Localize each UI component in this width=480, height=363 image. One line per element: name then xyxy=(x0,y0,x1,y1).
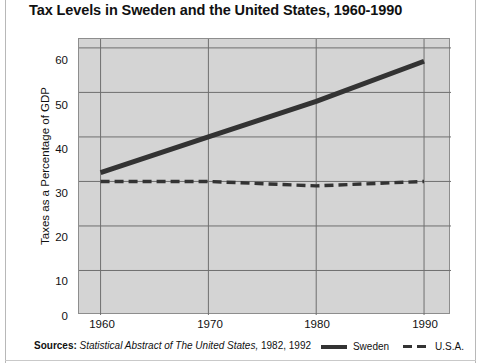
x-tick-label-1960: 1960 xyxy=(72,318,132,330)
page-edge-bottom xyxy=(5,360,476,361)
plot-area xyxy=(78,38,450,314)
y-tick-label-40: 40 xyxy=(28,143,68,155)
y-tick-label-50: 50 xyxy=(28,99,68,111)
y-tick-label-10: 10 xyxy=(28,275,68,287)
page-title: Tax Levels in Sweden and the United Stat… xyxy=(29,2,459,19)
legend-solid-line-icon xyxy=(321,345,347,349)
y-tick-label-30: 30 xyxy=(28,187,68,199)
legend-item-usa[interactable]: U.S.A. xyxy=(403,341,464,352)
chart-legend: Sweden U.S.A. xyxy=(321,341,464,352)
page-edge-right xyxy=(475,0,476,363)
gridlines xyxy=(79,39,451,315)
x-tick-label-1970: 1970 xyxy=(180,318,240,330)
legend-label-usa: U.S.A. xyxy=(435,341,464,352)
series-lines xyxy=(101,61,424,186)
y-tick-label-0: 0 xyxy=(28,310,68,322)
x-tick-label-1980: 1980 xyxy=(287,318,347,330)
legend-item-sweden[interactable]: Sweden xyxy=(321,341,389,352)
legend-dashed-line-icon xyxy=(403,345,429,348)
page-edge-left xyxy=(5,0,6,363)
series-line-sweden xyxy=(101,61,424,172)
y-tick-label-60: 60 xyxy=(28,54,68,66)
sources-years: 1982, 1992 xyxy=(261,340,311,351)
legend-label-sweden: Sweden xyxy=(353,341,389,352)
chart-page: Tax Levels in Sweden and the United Stat… xyxy=(0,0,480,363)
x-tick-label-1990: 1990 xyxy=(395,318,455,330)
sources-publication: Statistical Abstract of The United State… xyxy=(80,340,259,351)
y-tick-label-20: 20 xyxy=(28,231,68,243)
chart-svg xyxy=(79,39,451,315)
sources-label: Sources: xyxy=(34,340,77,351)
series-line-usa xyxy=(101,181,424,185)
